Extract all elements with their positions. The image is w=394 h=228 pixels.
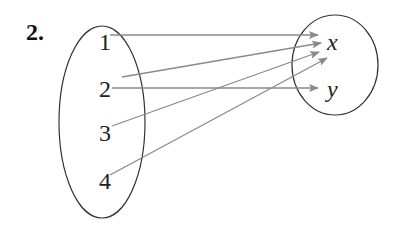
domain-elements: 1234 <box>99 29 111 194</box>
arrow-2-to-x <box>122 43 321 77</box>
range-element-x: x <box>326 29 338 55</box>
arrow-4-to-x <box>110 58 327 175</box>
domain-element-3: 3 <box>99 120 111 146</box>
mapping-diagram: 2. 1234 xy <box>0 0 394 228</box>
problem-number: 2. <box>26 19 44 45</box>
range-element-y: y <box>325 76 338 102</box>
domain-element-4: 4 <box>99 168 111 194</box>
domain-element-1: 1 <box>99 29 111 55</box>
range-elements: xy <box>325 29 338 102</box>
domain-element-2: 2 <box>99 76 111 102</box>
